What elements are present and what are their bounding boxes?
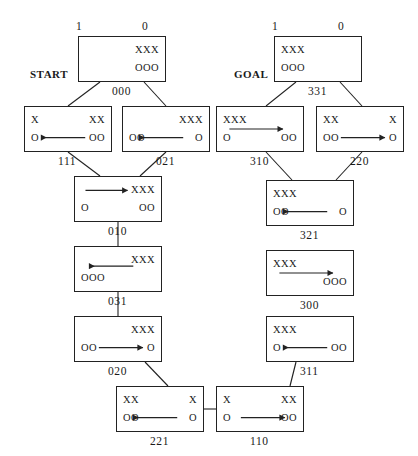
edge-000-111: [68, 82, 100, 106]
state-node-label-021: 021: [156, 155, 175, 167]
move-arrow-icon: [117, 387, 203, 431]
state-node-331: XXXOOO: [274, 36, 362, 82]
state-node-label-020: 020: [108, 365, 127, 377]
column-header-goal-0: 0: [338, 20, 344, 32]
column-header-goal-1: 1: [272, 20, 278, 32]
node-cell-top-right: XXX: [135, 45, 159, 56]
edge-310-321: [266, 152, 292, 180]
state-node-220: XXXOOO: [316, 106, 404, 152]
state-node-label-221: 221: [150, 435, 169, 447]
move-arrow-icon: [217, 107, 303, 151]
state-node-111: XXXOOO: [24, 106, 112, 152]
edge-110-311: [290, 362, 296, 386]
state-node-300: XXXOOO: [266, 250, 354, 296]
diagram-canvas: 1 0 1 0 START GOAL XXXOOO000XXXOOO111XXX…: [0, 0, 418, 456]
state-node-label-010: 010: [108, 225, 127, 237]
state-node-021: XXXOOO: [122, 106, 210, 152]
move-arrow-icon: [123, 107, 209, 151]
state-node-label-110: 110: [250, 435, 269, 447]
column-header-start-1: 1: [76, 20, 82, 32]
move-arrow-icon: [217, 387, 303, 431]
start-annotation: START: [30, 68, 68, 80]
goal-annotation: GOAL: [234, 68, 268, 80]
edge-331-220: [340, 82, 362, 106]
state-node-311: XXXOOO: [266, 316, 354, 362]
state-node-321: XXXOOO: [266, 180, 354, 226]
edge-020-221: [145, 362, 168, 386]
node-cell-top-left: XXX: [281, 45, 305, 56]
node-cell-bottom-right: OOO: [135, 63, 159, 74]
state-node-label-111: 111: [58, 155, 76, 167]
edge-000-021: [144, 82, 166, 106]
state-node-221: XXXOOO: [116, 386, 204, 432]
state-node-label-331: 331: [308, 85, 327, 97]
state-node-label-300: 300: [300, 299, 319, 311]
move-arrow-icon: [25, 107, 111, 151]
state-node-label-031: 031: [108, 295, 127, 307]
state-node-label-311: 311: [300, 365, 319, 377]
move-arrow-icon: [267, 251, 353, 295]
state-node-label-220: 220: [350, 155, 369, 167]
move-arrow-icon: [267, 181, 353, 225]
move-arrow-icon: [75, 177, 161, 221]
state-node-310: XXXOOO: [216, 106, 304, 152]
state-node-010: XXXOOO: [74, 176, 162, 222]
move-arrow-icon: [75, 317, 161, 361]
column-header-start-0: 0: [142, 20, 148, 32]
state-node-020: XXXOOO: [74, 316, 162, 362]
edge-331-310: [266, 82, 296, 106]
state-node-label-310: 310: [250, 155, 269, 167]
move-arrow-icon: [75, 247, 161, 291]
move-arrow-icon: [267, 317, 353, 361]
state-node-110: XXXOOO: [216, 386, 304, 432]
node-cell-bottom-left: OOO: [281, 63, 305, 74]
move-arrow-icon: [317, 107, 403, 151]
state-node-000: XXXOOO: [78, 36, 166, 82]
state-node-031: XXXOOO: [74, 246, 162, 292]
state-node-label-000: 000: [112, 85, 131, 97]
state-node-label-321: 321: [300, 229, 319, 241]
